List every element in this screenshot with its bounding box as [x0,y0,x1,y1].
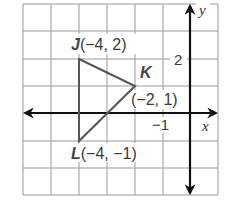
vertex-name-l: L [71,145,81,162]
vertex-label-j: J(−4, 2) [71,36,127,53]
vertex-name-k: K [140,64,153,81]
y-axis-label: y [197,2,206,18]
coordinate-plane: y x 2 −1 J(−4, 2) K (−2, 1) L(−4, −1) [0,0,227,214]
x-tick-label-neg1: −1 [152,116,169,133]
vertex-coords-l: (−4, −1) [81,145,137,162]
y-tick-label-2: 2 [174,51,182,68]
vertex-label-l: L(−4, −1) [71,145,137,162]
vertex-coords-j: (−4, 2) [80,36,127,53]
vertex-coords-k: (−2, 1) [131,91,178,108]
x-axis-label: x [201,118,209,134]
